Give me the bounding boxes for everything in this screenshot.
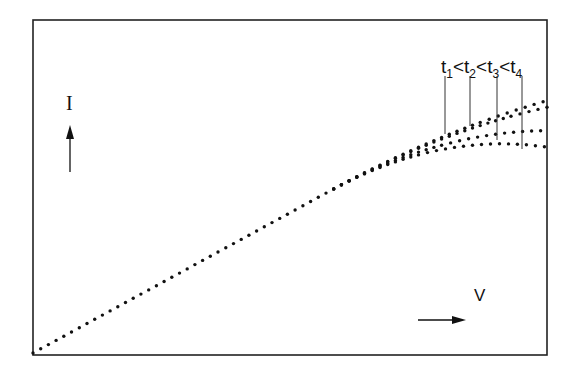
x-arrow-icon	[418, 316, 466, 324]
curves	[31, 100, 548, 355]
leader-lines	[445, 76, 522, 149]
x-axis-label: V	[474, 286, 485, 306]
less-than: <	[453, 56, 464, 77]
less-than: <	[499, 56, 510, 77]
time-order-annotation: t1<t2<t3<t4	[441, 56, 522, 81]
y-arrow-icon	[66, 125, 74, 172]
y-axis-label: I	[66, 92, 73, 115]
subscript-1: 1	[446, 67, 453, 81]
less-than: <	[476, 56, 487, 77]
subscript-4: 4	[516, 67, 523, 81]
